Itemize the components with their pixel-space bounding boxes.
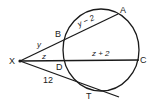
label-x: X [9, 56, 15, 66]
segment-xb-label: y [36, 40, 42, 49]
segment-ba-label: y − 2 [75, 13, 96, 29]
segment-xd-label: z [41, 52, 46, 61]
label-t: T [86, 91, 92, 101]
secant-xc [20, 60, 139, 61]
tangent-xt [20, 61, 119, 97]
label-d: D [56, 62, 63, 72]
secant-tangent-diagram: X A B C D T y y − 2 z z + 2 12 [0, 0, 154, 103]
label-c: C [140, 55, 147, 65]
segment-xt-label: 12 [43, 75, 53, 85]
vertex-x-dot [18, 59, 21, 62]
segment-dc-label: z + 2 [91, 49, 110, 58]
label-b: B [55, 29, 61, 39]
label-a: A [120, 5, 126, 15]
